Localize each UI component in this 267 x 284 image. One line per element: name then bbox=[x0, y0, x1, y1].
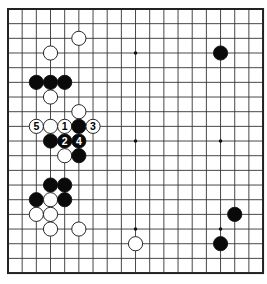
white-stone bbox=[72, 31, 86, 45]
black-stone bbox=[213, 237, 227, 251]
move-number-label: 5 bbox=[33, 120, 39, 132]
black-stone bbox=[58, 193, 72, 207]
white-stone bbox=[58, 149, 72, 163]
black-stone: 2 bbox=[58, 134, 72, 148]
black-stone bbox=[58, 178, 72, 192]
white-stone: 5 bbox=[29, 119, 43, 133]
white-stone bbox=[72, 222, 86, 236]
white-stone bbox=[43, 222, 57, 236]
black-stone bbox=[29, 75, 43, 89]
move-number-label: 2 bbox=[62, 135, 68, 147]
white-stone bbox=[43, 90, 57, 104]
black-stone bbox=[72, 149, 86, 163]
star-point bbox=[219, 139, 223, 143]
white-stone bbox=[43, 119, 57, 133]
black-stone bbox=[43, 134, 57, 148]
star-point bbox=[134, 139, 138, 143]
white-stone: 3 bbox=[86, 119, 100, 133]
star-point bbox=[134, 227, 138, 231]
white-stone bbox=[43, 207, 57, 221]
black-stone bbox=[29, 193, 43, 207]
black-stone: 4 bbox=[72, 134, 86, 148]
white-stone bbox=[72, 105, 86, 119]
white-stone bbox=[43, 46, 57, 60]
black-stone bbox=[213, 46, 227, 60]
black-stone bbox=[228, 207, 242, 221]
move-number-label: 1 bbox=[62, 120, 68, 132]
move-number-label: 3 bbox=[90, 120, 96, 132]
move-number-label: 4 bbox=[76, 135, 82, 147]
white-stone bbox=[43, 193, 57, 207]
black-stone bbox=[43, 75, 57, 89]
white-stone: 1 bbox=[58, 119, 72, 133]
black-stone bbox=[72, 119, 86, 133]
star-point bbox=[134, 51, 138, 55]
star-point bbox=[219, 227, 223, 231]
white-stone bbox=[128, 237, 142, 251]
go-board: 51324 bbox=[0, 0, 267, 284]
white-stone bbox=[29, 207, 43, 221]
go-board-diagram: 51324 bbox=[0, 0, 267, 284]
black-stone bbox=[43, 178, 57, 192]
black-stone bbox=[58, 75, 72, 89]
